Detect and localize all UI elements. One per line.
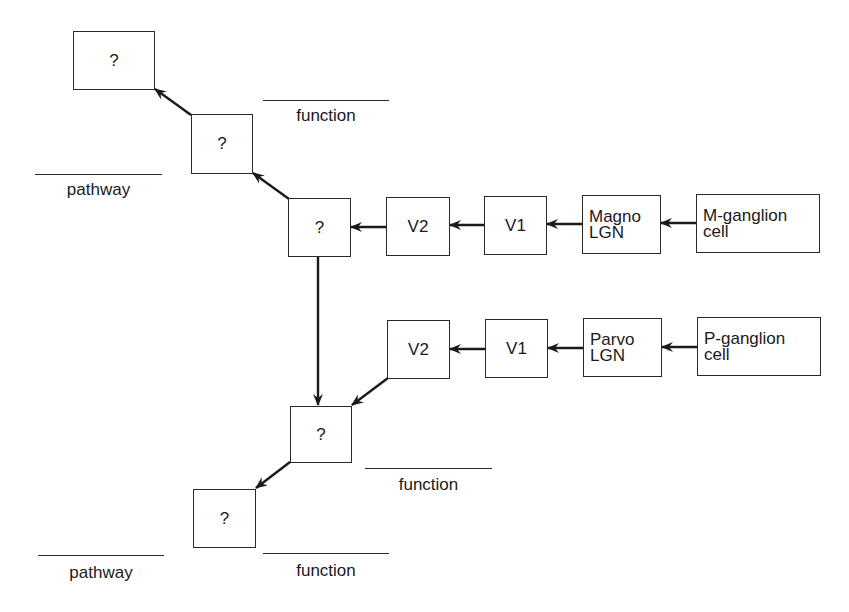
parvo-lgn-box: Parvo LGN bbox=[583, 318, 662, 377]
node-label: ? bbox=[109, 53, 118, 69]
node-label: V2 bbox=[408, 219, 429, 235]
connector-arrows bbox=[0, 0, 849, 612]
function-label-mid: function bbox=[365, 475, 492, 495]
node-label: Magno LGN bbox=[589, 209, 641, 241]
v1-parvo-box: V1 bbox=[485, 319, 548, 378]
v1-magno-box: V1 bbox=[484, 196, 547, 255]
node-label: V1 bbox=[506, 341, 527, 357]
v2-parvo-box: V2 bbox=[387, 320, 450, 379]
pathway-label-bottom: pathway bbox=[38, 563, 164, 583]
function-blank-mid-line[interactable] bbox=[365, 468, 492, 469]
node-label: P-ganglion cell bbox=[704, 331, 785, 363]
node-label: ? bbox=[220, 511, 229, 527]
unknown-area-box-3: ? bbox=[288, 198, 351, 257]
p-ganglion-cell-box: P-ganglion cell bbox=[697, 317, 821, 376]
v2-magno-box: V2 bbox=[386, 197, 450, 256]
node-label: V2 bbox=[408, 342, 429, 358]
function-label-top: function bbox=[263, 106, 389, 126]
function-blank-bottom-line[interactable] bbox=[263, 553, 389, 554]
m-ganglion-cell-box: M-ganglion cell bbox=[696, 194, 820, 253]
node-label: ? bbox=[315, 220, 324, 236]
unknown-area-box-4: ? bbox=[290, 406, 352, 463]
magno-lgn-box: Magno LGN bbox=[582, 195, 661, 254]
pathway-label-top: pathway bbox=[35, 180, 162, 200]
unknown-area-box-1: ? bbox=[73, 31, 155, 90]
pathway-blank-bottom-line[interactable] bbox=[38, 555, 164, 556]
unknown-area-box-2: ? bbox=[191, 114, 253, 174]
node-label: ? bbox=[316, 427, 325, 443]
pathway-blank-top-line[interactable] bbox=[35, 174, 162, 175]
node-label: M-ganglion cell bbox=[703, 208, 787, 240]
function-blank-top-line[interactable] bbox=[263, 100, 389, 101]
node-label: Parvo LGN bbox=[590, 332, 634, 364]
function-label-bottom: function bbox=[263, 561, 389, 581]
node-label: V1 bbox=[505, 218, 526, 234]
node-label: ? bbox=[217, 136, 226, 152]
unknown-area-box-5: ? bbox=[193, 489, 256, 548]
